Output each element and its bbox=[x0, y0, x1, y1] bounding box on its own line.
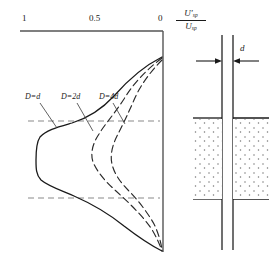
x-tick-label-1: 1 bbox=[22, 14, 27, 23]
curve-D-equals-2d bbox=[92, 58, 162, 251]
substrate-material-left bbox=[193, 119, 222, 199]
x-tick-label-0: 0 bbox=[158, 14, 163, 23]
substrate-material-right bbox=[233, 119, 269, 199]
potential-distribution-figure: 1 0.5 0 U′sp Usp D=d D=2d D=4d d bbox=[0, 0, 273, 253]
denominator-subscript: sp bbox=[192, 25, 197, 31]
curve-label-D-equals-4d: D=4d bbox=[99, 93, 118, 101]
curve-label-D-equals-d: D=d bbox=[25, 93, 40, 101]
x-tick-label-0-5: 0.5 bbox=[89, 14, 100, 23]
axis-quantity-denominator: Usp bbox=[176, 20, 206, 32]
curve-label-D-equals-2d: D=2d bbox=[61, 93, 80, 101]
dimension-arrowhead-right bbox=[233, 58, 240, 64]
numerator-subscript: sp bbox=[193, 12, 198, 18]
axis-quantity-numerator: U′sp bbox=[176, 9, 206, 19]
leader-line-D-equals-2d bbox=[77, 103, 93, 131]
leader-line-D-equals-d bbox=[40, 103, 57, 128]
gap-dimension-label: d bbox=[240, 44, 245, 53]
figure-canvas bbox=[0, 0, 273, 253]
curve-D-equals-d bbox=[36, 57, 162, 251]
dimension-arrowhead-left bbox=[215, 58, 222, 64]
axis-quantity-label: U′sp Usp bbox=[176, 9, 206, 32]
